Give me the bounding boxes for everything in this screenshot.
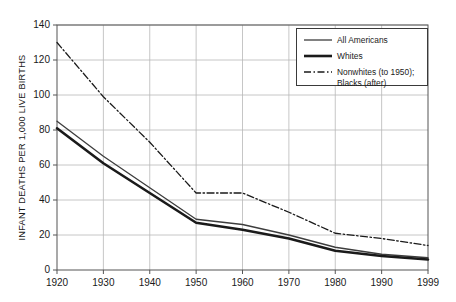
x-tick-label: 1920 — [34, 278, 80, 288]
x-tick-label: 1999 — [405, 278, 451, 288]
legend-label-whites: Whites — [337, 50, 363, 62]
y-tick-label: 20 — [16, 230, 50, 240]
x-tick-label: 1930 — [80, 278, 126, 288]
legend-swatch-solid-thick — [303, 50, 333, 62]
y-tick-label: 40 — [16, 195, 50, 205]
x-tick-label: 1970 — [266, 278, 312, 288]
x-tick-label: 1960 — [220, 278, 266, 288]
x-tick-label: 1980 — [312, 278, 358, 288]
chart-legend: All Americans Whites Nonwhites (to 1950)… — [296, 28, 428, 86]
y-tick-label: 140 — [16, 20, 50, 30]
y-tick-label: 60 — [16, 160, 50, 170]
y-tick-label: 80 — [16, 125, 50, 135]
x-tick-label: 1950 — [173, 278, 219, 288]
legend-swatch-dash-dot — [303, 66, 333, 78]
x-tick-label: 1990 — [359, 278, 405, 288]
y-tick-label: 120 — [16, 55, 50, 65]
legend-label-all-americans: All Americans — [337, 34, 388, 46]
y-tick-label: 100 — [16, 90, 50, 100]
legend-label-nonwhites-line2: Blacks (after) — [337, 77, 386, 89]
legend-swatch-solid-thin — [303, 34, 333, 46]
x-tick-label: 1940 — [127, 278, 173, 288]
infant-mortality-line-chart: INFANT DEATHS PER 1,000 LIVE BIRTHS 0204… — [0, 0, 456, 302]
y-tick-label: 0 — [16, 265, 50, 275]
